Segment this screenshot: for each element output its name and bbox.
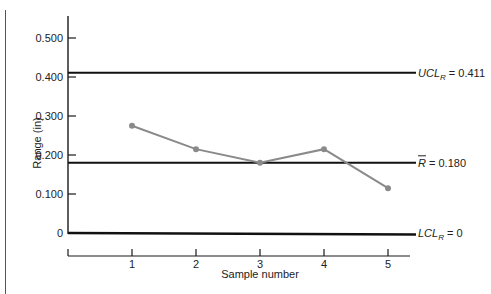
reference-line-lcl-r bbox=[68, 233, 416, 235]
x-tick-label: 2 bbox=[193, 258, 199, 270]
data-point bbox=[385, 185, 391, 191]
control-chart: 00.1000.2000.3000.4000.500 UCLR = 0.411R… bbox=[0, 0, 491, 294]
reference-lines: UCLR = 0.411R = 0.180LCLR = 0 bbox=[68, 67, 485, 242]
data-point bbox=[129, 123, 135, 129]
y-tick-label: 0.100 bbox=[35, 188, 63, 200]
y-axis-title: Range (in) bbox=[31, 117, 43, 168]
data-point bbox=[193, 146, 199, 152]
x-tick-label: 4 bbox=[321, 258, 327, 270]
x-axis-title: Sample number bbox=[221, 268, 299, 280]
data-point bbox=[321, 146, 327, 152]
y-tick-label: 0.500 bbox=[35, 32, 63, 44]
y-tick-label: 0 bbox=[57, 227, 63, 239]
series-line bbox=[132, 126, 388, 188]
data-point bbox=[257, 160, 263, 166]
x-tick-label: 1 bbox=[129, 258, 135, 270]
reference-label-r-bar: R = 0.180 bbox=[418, 157, 466, 169]
x-tick-label: 5 bbox=[385, 258, 391, 270]
reference-label-lcl-r: LCLR = 0 bbox=[418, 227, 463, 242]
reference-label-ucl-r: UCLR = 0.411 bbox=[418, 67, 485, 82]
y-tick-label: 0.400 bbox=[35, 71, 63, 83]
data-series bbox=[129, 123, 391, 191]
x-axis: 12345 bbox=[68, 249, 410, 270]
